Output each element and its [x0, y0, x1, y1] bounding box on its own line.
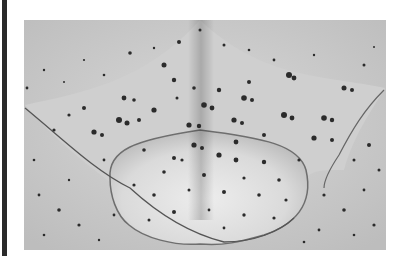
ray-illustration — [24, 20, 386, 250]
specimen-photo: speckled ray specimen photograph — [24, 20, 386, 250]
left-border-bar — [2, 0, 7, 256]
